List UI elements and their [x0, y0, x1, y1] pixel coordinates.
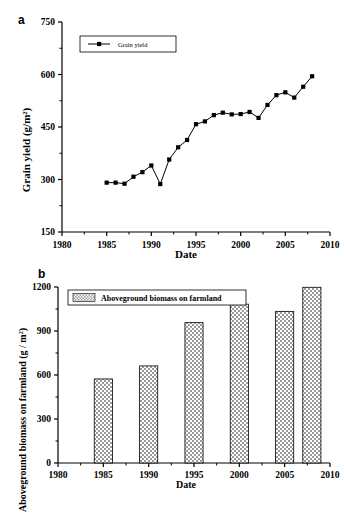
panel-b-x-axis-title: Date	[176, 479, 197, 490]
panel-a-data-point	[274, 93, 278, 97]
panel-a-line	[107, 76, 312, 184]
panel-a-legend-marker	[97, 42, 101, 46]
panel-b-bar	[185, 323, 203, 463]
panel-a-data-point	[221, 111, 225, 115]
panel-a-data-series	[105, 74, 315, 186]
panel-a-x-tick-1990: 1990	[142, 240, 161, 250]
panel-a-y-axis-title: Grain yield (g/m2)	[20, 107, 33, 192]
panel-a-legend: Grain yield	[80, 36, 176, 52]
panel-b-x-tick-1985: 1985	[94, 470, 113, 480]
panel-a-y-tick-labels: 150300450600750	[41, 17, 56, 237]
panel-a-x-tick-1985: 1985	[97, 240, 116, 250]
panel-a-grain-yield: a 150300450600750 1980198519901995200020…	[0, 0, 344, 262]
panel-a-data-point	[176, 145, 180, 149]
panel-a-data-point	[212, 113, 216, 117]
panel-a-data-point	[256, 116, 260, 120]
panel-b-y-tick-labels: 03006009001200	[32, 282, 51, 468]
panel-b-bar	[276, 311, 294, 463]
panel-b-legend-label: Aboveground biomass on farmland	[101, 294, 222, 303]
figure-container: a 150300450600750 1980198519901995200020…	[0, 0, 344, 522]
panel-a-y-tick-750: 750	[41, 17, 56, 27]
panel-a-data-point	[239, 112, 243, 116]
panel-a-data-point	[283, 90, 287, 94]
panel-a-data-point	[265, 103, 269, 107]
panel-a-y-tick-300: 300	[41, 175, 56, 185]
panel-b-y-tick-1200: 1200	[32, 282, 51, 292]
panel-b-x-tick-1980: 1980	[49, 470, 68, 480]
panel-b-legend-swatch	[73, 294, 95, 302]
panel-a-y-tick-450: 450	[41, 122, 56, 132]
panel-a-data-point	[203, 119, 207, 123]
panel-b-bar	[230, 304, 248, 463]
panel-b-x-tick-1990: 1990	[139, 470, 158, 480]
panel-a-data-point	[140, 170, 144, 174]
panel-a-y-tick-600: 600	[41, 70, 56, 80]
panel-b-y-tick-900: 900	[37, 326, 52, 336]
panel-a-data-point	[167, 157, 171, 161]
panel-a-data-point	[248, 110, 252, 114]
panel-a-plot: 150300450600750 198019851990199520002005…	[0, 0, 344, 262]
panel-a-data-point	[131, 175, 135, 179]
panel-b-y-axis-title: Aboveground biomass on farmland (g / m2)	[17, 328, 29, 512]
panel-a-legend-label: Grain yield	[118, 41, 148, 48]
panel-a-data-point	[185, 138, 189, 142]
panel-a-data-point	[122, 182, 126, 186]
panel-a-data-point	[194, 122, 198, 126]
panel-a-data-point	[158, 182, 162, 186]
panel-a-x-tick-2000: 2000	[231, 240, 250, 250]
panel-a-y-tick-150: 150	[41, 227, 56, 237]
panel-b-x-tick-2005: 2005	[275, 470, 294, 480]
panel-b-bar	[303, 287, 321, 463]
panel-b-x-tick-2000: 2000	[230, 470, 249, 480]
panel-a-data-point	[149, 163, 153, 167]
panel-a-x-tick-2010: 2010	[321, 240, 340, 250]
panel-b-y-tick-0: 0	[46, 458, 51, 468]
panel-a-data-point	[114, 181, 118, 185]
panel-a-x-tick-1980: 1980	[53, 240, 72, 250]
panel-a-data-point	[230, 112, 234, 116]
panel-b-y-tick-600: 600	[37, 370, 52, 380]
panel-b-bars	[94, 287, 321, 463]
panel-b-bar	[140, 366, 158, 463]
panel-b-y-tick-300: 300	[37, 414, 52, 424]
panel-b-x-tick-2010: 2010	[321, 470, 340, 480]
panel-a-x-axis-title: Date	[175, 248, 197, 260]
panel-a-data-point	[310, 74, 314, 78]
panel-b-legend: Aboveground biomass on farmland	[68, 290, 246, 305]
panel-a-axes	[58, 22, 330, 236]
panel-b-plot: 03006009001200 1980198519901995200020052…	[0, 260, 344, 522]
panel-b-aboveground-biomass: b 03006009001200 19801985199019952000200…	[0, 260, 344, 522]
panel-b-bar	[94, 379, 112, 463]
panel-a-data-point	[292, 96, 296, 100]
panel-a-x-tick-2005: 2005	[276, 240, 295, 250]
panel-a-data-point	[301, 85, 305, 89]
panel-a-data-point	[105, 181, 109, 185]
